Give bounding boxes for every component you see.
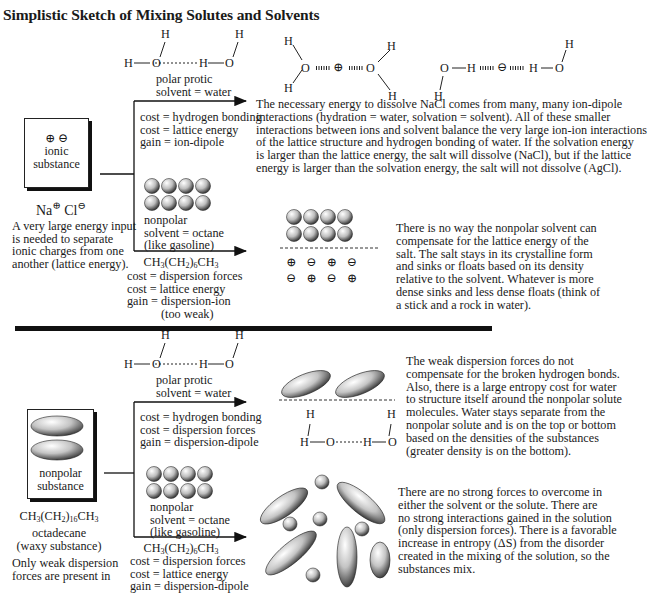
octadecane-name: octadecane [6,527,112,540]
octane-label-bottom: nonpolar solvent = octane (like gasoline… [150,501,230,539]
atom-o: O [326,436,335,449]
atom-o: O [225,358,234,371]
f: CH [198,541,215,555]
label-line: (like gasoline) [144,239,224,252]
atom-h: H [199,57,208,70]
paragraph-line: compensate for the lattice energy of the [396,235,600,248]
ion: ⊕ [306,271,316,285]
paragraph-line: The necessary energy to dissolve NaCl co… [256,98,647,111]
f: CH [198,255,215,269]
octane-result-top: There is no way the nonpolar solvent can… [396,222,600,312]
nacl-formula: Na⊕ Cl⊖ [36,200,86,219]
ion: ⊕ [347,271,357,285]
ion: ⊖ [347,255,357,269]
ion: ⊕ [327,255,337,269]
minus-charge: ⊖ [77,200,85,211]
label-line: nonpolar [144,214,224,227]
top-water-dimer-bonds [134,42,238,63]
cl-symbol: Cl [64,203,77,218]
cost-line: cost = hydrogen bonding [140,411,262,424]
paragraph-line: The weak dispersion forces do not [406,355,622,368]
atom-o: O [152,57,161,70]
paragraph-line: There is no way the nonpolar solvent can [396,222,600,235]
water-result-bottom: The weak dispersion forces do not compen… [406,355,622,457]
label-line: nonpolar [150,501,230,514]
paragraph-line: compensate for the broken hydrogen bonds… [406,368,622,381]
f: (CH [164,255,185,269]
ion-row: ⊕ ⊖ ⊕ ⊖ [286,256,357,269]
f: CH [78,509,95,523]
paragraph-line: interactions (hydration = water, solvati… [256,111,647,124]
f: CH [144,255,161,269]
atom-h: H [199,358,208,371]
atom-h: H [529,62,538,75]
ionic-substance-box: ⊕ ⊖ ionic substance [24,118,89,188]
paragraph-line: nonpolar solute and is on the top or bot… [406,419,622,432]
cost-line: cost = dispersion forces [127,270,243,283]
f: CH [144,541,161,555]
gain-line: gain = dispersion-dipole [140,436,262,449]
note-line: forces are present in [12,570,118,583]
note-line: Only weak dispersion [12,557,118,570]
paragraph-line: energy is larger than the solvation ener… [256,162,647,175]
octadecane-desc: (waxy substance) [6,540,112,553]
paragraph-line: a stick and a rock in water). [396,299,600,312]
octane-spheres-top [145,179,211,211]
paragraph-line: (greater density is on the bottom). [406,445,622,458]
ionic-note: A very large energy input is needed to s… [12,220,136,270]
f: 3 [94,515,98,524]
nonpolar-substance-box: nonpolar substance [27,409,94,499]
gain-line: gain = ion-dipole [140,136,262,149]
paragraph-line: There are no strong forces to overcome i… [398,486,617,499]
separated-ellipses [278,365,388,403]
paragraph-line: created in the mixing of the solution, s… [398,550,617,563]
page-title: Simplistic Sketch of Mixing Solutes and … [3,6,319,24]
cation-symbol: ⊕ [333,61,343,74]
gain-line: gain = dispersion-ion [127,295,243,308]
ion: ⊖ [327,271,337,285]
atom-h: H [284,82,293,95]
atom-o: O [301,62,310,75]
atom-o: O [555,62,564,75]
note-line: A very large energy input [12,220,136,233]
atom-h: H [467,62,476,75]
paragraph-line: substances mix. [398,563,617,576]
ion-row: ⊖ ⊕ ⊖ ⊕ [286,272,357,285]
atom-h: H [124,57,133,70]
note-line: another (lattice energy). [12,258,136,271]
nonpolar-note: Only weak dispersion forces are present … [12,557,118,582]
octane-costs-bottom: cost = dispersion forces cost = lattice … [130,555,249,593]
ionic-label: substance [25,158,88,171]
note-line: (too weak) [127,308,243,321]
f: (CH [40,509,61,523]
note-line: ionic charges from one [12,245,136,258]
atom-o: O [440,62,449,75]
octane-label-top: nonpolar solvent = octane (like gasoline… [144,214,224,252]
atom-h: H [235,28,244,41]
paragraph-line: based on the densities of the substances [406,432,622,445]
octane-costs-top: cost = dispersion forces cost = lattice … [127,270,243,320]
paragraph-line: dense sinks and less dense floats (think… [396,286,600,299]
anion-symbol: ⊖ [497,61,507,74]
water-costs-top: cost = hydrogen bonding cost = lattice e… [140,111,262,149]
f: CH [20,509,37,523]
atom-o: O [225,57,234,70]
ion: ⊕ [286,255,296,269]
gain-line: gain = dispersion-dipole [130,580,249,593]
octane-result-bottom: There are no strong forces to overcome i… [398,486,617,576]
atom-h: H [300,436,309,449]
ion: ⊖ [306,255,316,269]
water-label-line: solvent = water [156,86,231,99]
cost-line: cost = dispersion forces [130,555,249,568]
atom-o: O [388,436,397,449]
bottom-water-dimer-bonds [134,343,238,364]
separated-water-bonds [308,424,391,442]
mixed-solution [255,476,390,587]
atom-h: H [161,28,170,41]
label-line: polar protic [156,374,231,387]
ion: ⊖ [286,271,296,285]
atom-h: H [363,436,372,449]
nonpolar-label: substance [28,480,93,493]
cost-line: cost = hydrogen bonding [140,111,262,124]
atom-h: H [124,358,133,371]
